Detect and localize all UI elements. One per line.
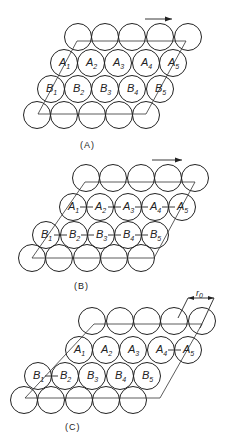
svg-text:A3: A3 xyxy=(112,56,124,70)
dislocation-diagram: A1 A2 A3 A4 A5 B1 B2 B3 B4 B5 (A) xyxy=(0,0,231,445)
svg-text:B4: B4 xyxy=(127,82,138,96)
arrow-head-icon xyxy=(165,17,172,22)
caption-c: (C) xyxy=(65,422,81,432)
svg-text:A3: A3 xyxy=(127,343,139,357)
svg-text:A2: A2 xyxy=(85,56,97,70)
svg-text:A5: A5 xyxy=(176,200,188,214)
svg-text:B2: B2 xyxy=(73,82,84,96)
panel-a: A1 A2 A3 A4 A5 B1 B2 B3 B4 B5 (A) xyxy=(24,17,202,151)
svg-text:B3: B3 xyxy=(100,82,111,96)
svg-text:A1: A1 xyxy=(67,200,79,214)
caption-b: (B) xyxy=(74,281,89,291)
atom-row-top xyxy=(79,308,216,335)
svg-text:A4: A4 xyxy=(155,343,167,357)
svg-text:A3: A3 xyxy=(122,200,134,214)
svg-text:r0: r0 xyxy=(196,288,203,299)
svg-text:A2: A2 xyxy=(100,343,112,357)
svg-text:B4: B4 xyxy=(123,228,134,242)
svg-text:B1: B1 xyxy=(41,228,52,242)
svg-text:A4: A4 xyxy=(149,200,161,214)
unit-cell-outline xyxy=(32,182,195,258)
atom-row-bottom xyxy=(11,387,147,414)
svg-text:A4: A4 xyxy=(140,56,152,70)
r0-dimension: r0 xyxy=(178,288,214,328)
svg-text:B1: B1 xyxy=(46,82,57,96)
svg-text:A5: A5 xyxy=(167,56,179,70)
svg-text:B2: B2 xyxy=(69,228,80,242)
atom-row-bottom xyxy=(24,102,160,129)
svg-text:B5: B5 xyxy=(155,82,166,96)
svg-text:B2: B2 xyxy=(60,369,71,383)
svg-text:B3: B3 xyxy=(96,228,107,242)
svg-text:B1: B1 xyxy=(33,369,44,383)
panel-b: A1 A2 A3 A4 A5 B1 B2 B3 B4 B5 (B) xyxy=(19,158,209,292)
svg-text:B4: B4 xyxy=(115,369,126,383)
arrow-head-icon xyxy=(175,158,182,163)
atom-row-top xyxy=(73,165,209,192)
svg-text:A5: A5 xyxy=(182,343,194,357)
svg-text:B5: B5 xyxy=(150,228,161,242)
panel-c: r0 A1 A2 A3 A4 A5 B1 B2 B3 xyxy=(11,288,216,432)
caption-a: (A) xyxy=(80,140,95,150)
svg-text:A2: A2 xyxy=(94,200,106,214)
svg-text:A1: A1 xyxy=(58,56,70,70)
atom-row-top xyxy=(65,24,202,51)
svg-text:B5: B5 xyxy=(142,369,153,383)
svg-text:B3: B3 xyxy=(87,369,98,383)
svg-text:A1: A1 xyxy=(73,343,85,357)
